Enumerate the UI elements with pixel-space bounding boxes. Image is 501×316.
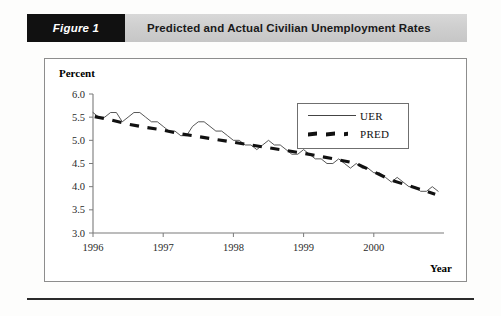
y-tick-label: 4.0 [72,181,85,192]
y-tick-label: 5.5 [72,112,85,123]
figure-title: Predicted and Actual Civilian Unemployme… [125,14,467,42]
legend-entry-uer: UER [298,107,408,125]
legend-label-pred: PRED [360,128,389,140]
legend-swatch-solid-icon [304,109,360,123]
x-tick-label: 1997 [153,242,174,253]
x-tick-label: 2000 [363,242,384,253]
bottom-divider [27,298,474,300]
y-tick-label: 6.0 [72,89,85,100]
figure-title-bar: Figure 1 Predicted and Actual Civilian U… [27,14,467,42]
chart-legend: UER PRED [297,103,409,149]
legend-entry-pred: PRED [298,125,408,143]
x-tick-label: 1999 [293,242,314,253]
y-tick-label: 4.5 [72,158,85,169]
figure-title-label: Predicted and Actual Civilian Unemployme… [147,22,431,34]
y-tick-label: 3.5 [72,204,85,215]
figure-number-label: Figure 1 [53,22,99,34]
figure-number-tag: Figure 1 [27,14,125,42]
x-tick-label: 1998 [223,242,244,253]
y-tick-label: 5.0 [72,135,85,146]
legend-label-uer: UER [360,110,383,122]
x-tick-label: 1996 [83,242,104,253]
plot-area: Percent Year 3.03.54.04.55.05.56.0199619… [45,59,466,281]
legend-swatch-dashed-icon [304,127,360,141]
chart-frame: Percent Year 3.03.54.04.55.05.56.0199619… [44,58,467,282]
y-tick-label: 3.0 [72,228,85,239]
figure-root: Figure 1 Predicted and Actual Civilian U… [0,0,501,316]
chart-svg: 3.03.54.04.55.05.56.01996199719981999200… [45,59,466,281]
